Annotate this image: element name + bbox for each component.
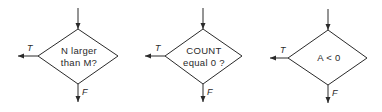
decision-text-line-1: N larger — [61, 45, 97, 56]
arrowhead-icon — [76, 23, 81, 29]
arrowhead-icon — [76, 96, 81, 102]
flowchart-canvas: N larger than M? T F COUNT equal 0 ? T F… — [0, 0, 382, 112]
true-label: T — [27, 43, 34, 53]
decision-text-line-2: equal 0 ? — [183, 57, 225, 68]
decision-n-larger-than-m: N larger than M? T F — [18, 8, 118, 102]
arrowhead-icon — [326, 24, 331, 30]
arrowhead-icon — [145, 54, 151, 59]
decision-a-less-than-zero: A < 0 T F — [270, 9, 367, 103]
arrowhead-icon — [201, 96, 206, 102]
decision-text-line-1: COUNT — [186, 45, 221, 56]
decision-text-line-1: A < 0 — [317, 52, 340, 63]
decision-count-equal-zero: COUNT equal 0 ? T F — [145, 8, 242, 102]
false-label: F — [332, 88, 338, 98]
false-label: F — [82, 87, 88, 97]
true-label: T — [155, 43, 162, 53]
arrowhead-icon — [270, 56, 276, 61]
arrowhead-icon — [18, 54, 24, 59]
true-label: T — [280, 45, 287, 55]
decision-text-line-2: than M? — [61, 57, 97, 68]
arrowhead-icon — [326, 97, 331, 103]
false-label: F — [207, 87, 213, 97]
arrowhead-icon — [201, 23, 206, 29]
